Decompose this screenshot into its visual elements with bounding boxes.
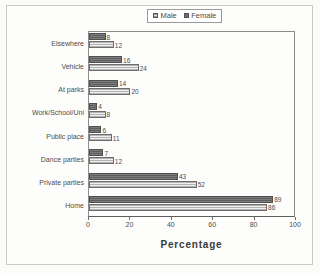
legend-item-male: Male bbox=[153, 11, 177, 20]
bar-value-label: 12 bbox=[115, 157, 122, 164]
legend-label-female: Female bbox=[191, 11, 216, 20]
x-tick-label: 40 bbox=[167, 221, 175, 229]
legend-label-male: Male bbox=[161, 11, 177, 20]
chart-legend: Male Female bbox=[147, 9, 222, 23]
category-label: At parks bbox=[58, 86, 84, 94]
x-tick-label: 20 bbox=[125, 221, 133, 229]
x-tick bbox=[129, 217, 130, 220]
bar-value-label: 4 bbox=[98, 103, 102, 110]
category-label: Home bbox=[65, 202, 84, 210]
bar-value-label: 24 bbox=[140, 64, 147, 71]
bar-male: 8 bbox=[89, 111, 106, 118]
chart-row: Private parties4352 bbox=[89, 172, 294, 195]
bar-value-label: 11 bbox=[113, 134, 120, 141]
bar-female: 14 bbox=[89, 80, 118, 87]
x-tick bbox=[295, 217, 296, 220]
bar-female: 7 bbox=[89, 149, 103, 156]
bar-female: 6 bbox=[89, 126, 101, 133]
plot-area: Elsewhere812Vehicle1624At parks1420Work/… bbox=[88, 31, 295, 217]
bar-value-label: 8 bbox=[107, 111, 111, 118]
bar-value-label: 52 bbox=[198, 181, 205, 188]
chart-row: Vehicle1624 bbox=[89, 55, 294, 78]
legend-swatch-male-icon bbox=[153, 13, 158, 18]
x-tick-label: 0 bbox=[86, 221, 90, 229]
bar-male: 24 bbox=[89, 64, 139, 71]
bar-female: 89 bbox=[89, 196, 273, 203]
category-label: Elsewhere bbox=[51, 40, 84, 48]
bar-value-label: 20 bbox=[131, 88, 138, 95]
bar-male: 86 bbox=[89, 204, 267, 211]
x-tick-label: 80 bbox=[250, 221, 258, 229]
bar-female: 4 bbox=[89, 103, 97, 110]
bar-female: 43 bbox=[89, 173, 178, 180]
x-tick bbox=[254, 217, 255, 220]
bar-value-label: 89 bbox=[274, 196, 281, 203]
chart-row: Work/School/Uni48 bbox=[89, 102, 294, 125]
bar-value-label: 6 bbox=[102, 126, 106, 133]
bar-female: 8 bbox=[89, 33, 106, 40]
legend-swatch-female-icon bbox=[184, 13, 189, 18]
x-tick-label: 100 bbox=[289, 221, 301, 229]
bar-value-label: 7 bbox=[104, 149, 108, 156]
x-tick bbox=[171, 217, 172, 220]
x-tick-label: 60 bbox=[208, 221, 216, 229]
chart-row: Home8986 bbox=[89, 195, 294, 218]
category-label: Work/School/Uni bbox=[32, 109, 84, 117]
x-axis-title: Percentage bbox=[88, 239, 295, 250]
bar-value-label: 12 bbox=[115, 41, 122, 48]
bar-value-label: 14 bbox=[119, 80, 126, 87]
category-label: Public place bbox=[46, 133, 84, 141]
bar-value-label: 43 bbox=[179, 173, 186, 180]
legend-item-female: Female bbox=[184, 11, 217, 20]
x-tick bbox=[212, 217, 213, 220]
bar-male: 11 bbox=[89, 134, 112, 141]
chart-row: Dance parties712 bbox=[89, 148, 294, 171]
category-label: Private parties bbox=[39, 179, 84, 187]
bar-male: 20 bbox=[89, 88, 130, 95]
bar-male: 12 bbox=[89, 41, 114, 48]
category-label: Dance parties bbox=[41, 156, 84, 164]
chart-row: Public place611 bbox=[89, 125, 294, 148]
chart-row: At parks1420 bbox=[89, 79, 294, 102]
category-label: Vehicle bbox=[61, 63, 84, 71]
bar-value-label: 8 bbox=[107, 33, 111, 40]
bar-value-label: 86 bbox=[268, 204, 275, 211]
bar-female: 16 bbox=[89, 56, 122, 63]
bar-male: 52 bbox=[89, 181, 197, 188]
x-axis: 020406080100 bbox=[88, 217, 295, 233]
x-tick bbox=[88, 217, 89, 220]
chart-page: Male Female Elsewhere812Vehicle1624At pa… bbox=[0, 0, 320, 273]
chart-row: Elsewhere812 bbox=[89, 32, 294, 55]
bar-value-label: 16 bbox=[123, 56, 130, 63]
bar-male: 12 bbox=[89, 157, 114, 164]
